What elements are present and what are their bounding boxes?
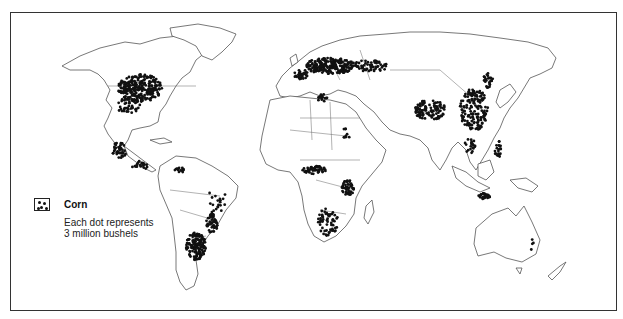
legend-description-line2: 3 million bushels [64, 228, 154, 239]
caribbean-outline [150, 138, 172, 144]
new-zealand-outline [548, 262, 566, 280]
australia-outline [474, 206, 540, 262]
tasmania-outline [516, 268, 522, 274]
legend-description: Each dot represents 3 million bushels [64, 217, 154, 239]
dot-cluster-icon [34, 198, 50, 211]
south-america-outline [158, 156, 238, 290]
world-dot-map [0, 0, 623, 319]
legend-description-line1: Each dot represents [64, 217, 154, 228]
borneo-outline [478, 160, 494, 180]
central-america-outline [124, 146, 156, 172]
madagascar-outline [364, 200, 374, 224]
new-guinea-outline [510, 178, 538, 192]
legend-title: Corn [64, 199, 87, 210]
